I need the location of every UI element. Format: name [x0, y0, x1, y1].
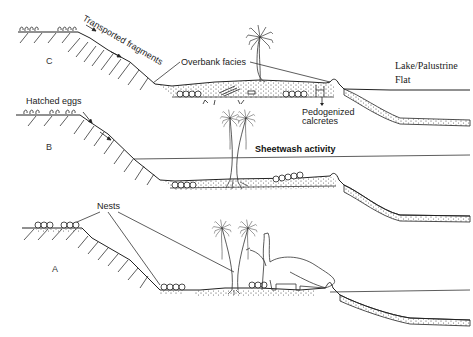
label-lake-palustrine: Lake/Palustrine	[395, 60, 458, 71]
label-hatched-eggs: Hatched eggs	[26, 96, 82, 106]
paleoenvironment-diagram: C Transported fragments	[0, 0, 473, 337]
panel-label-c: C	[46, 56, 53, 66]
label-overbank-facies: Overbank facies	[181, 57, 247, 67]
sheetwash-line	[134, 155, 470, 159]
label-flat: Flat	[395, 74, 411, 85]
panel-label-a: A	[52, 264, 58, 274]
label-sheetwash-activity: Sheetwash activity	[255, 144, 336, 154]
palm-trees-b	[220, 110, 255, 189]
surface-line-a	[22, 228, 470, 320]
hatched-eggs-c	[20, 27, 76, 31]
sauropod-dinosaurs	[246, 233, 335, 290]
panel-label-b: B	[46, 142, 52, 152]
panel-c: C Transported fragments	[18, 13, 470, 126]
lake-deposit-b	[344, 185, 470, 222]
label-calcretes: calcretes	[302, 116, 339, 126]
bedrock-hatching-a	[24, 229, 148, 288]
lake-deposit-a	[340, 295, 470, 326]
panel-b: Hatched eggs B Sheetwash activity	[16, 96, 470, 222]
label-nests: Nests	[97, 201, 121, 211]
palm-tree-c	[246, 25, 273, 82]
hatched-eggs-b	[24, 110, 75, 114]
nest-eggs-a-upper	[35, 222, 79, 228]
lake-deposit-c	[344, 89, 470, 126]
